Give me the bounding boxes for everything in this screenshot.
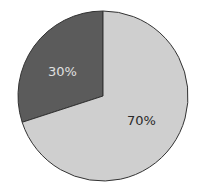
pie-chart: 30% 70%: [0, 0, 200, 194]
slice-label-30: 30%: [48, 64, 77, 79]
pie-slices: [18, 11, 188, 181]
slice-label-70: 70%: [127, 113, 156, 128]
